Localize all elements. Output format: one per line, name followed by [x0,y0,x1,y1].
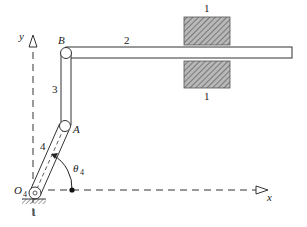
joint-o4-subscript: 4 [23,190,27,199]
lower-guide-block [184,61,230,88]
theta-symbol: θ [73,162,79,174]
x-axis [48,186,268,194]
ground-pivot-label: 1 [31,206,37,218]
theta-subscript: 4 [80,168,84,177]
ground-hatch-icon [22,199,46,204]
y-axis-arrow-icon [29,35,37,47]
joint-a-pin [60,121,71,132]
x-axis-label: x [266,191,272,203]
link-3-bar [61,53,71,125]
joint-b-pin [61,48,72,59]
link-2-bar [66,47,292,58]
joint-b-label: B [58,34,65,46]
link-2-label: 2 [124,34,130,46]
link-3-label: 3 [52,83,58,95]
link-4-bar [30,124,70,196]
angle-origin-dot [69,187,74,192]
joint-a-label: A [72,123,80,135]
mechanism-diagram: y x B A O 4 2 3 4 1 1 1 θ 4 [0,0,307,227]
link-4-label: 4 [40,140,46,152]
mechanism-svg: y x B A O 4 2 3 4 1 1 1 θ 4 [0,0,307,227]
upper-guide-block [184,17,230,45]
upper-guide-label: 1 [204,2,210,14]
y-axis-label: y [18,30,24,42]
joint-o4-label: O [14,184,22,196]
lower-guide-label: 1 [204,90,210,102]
